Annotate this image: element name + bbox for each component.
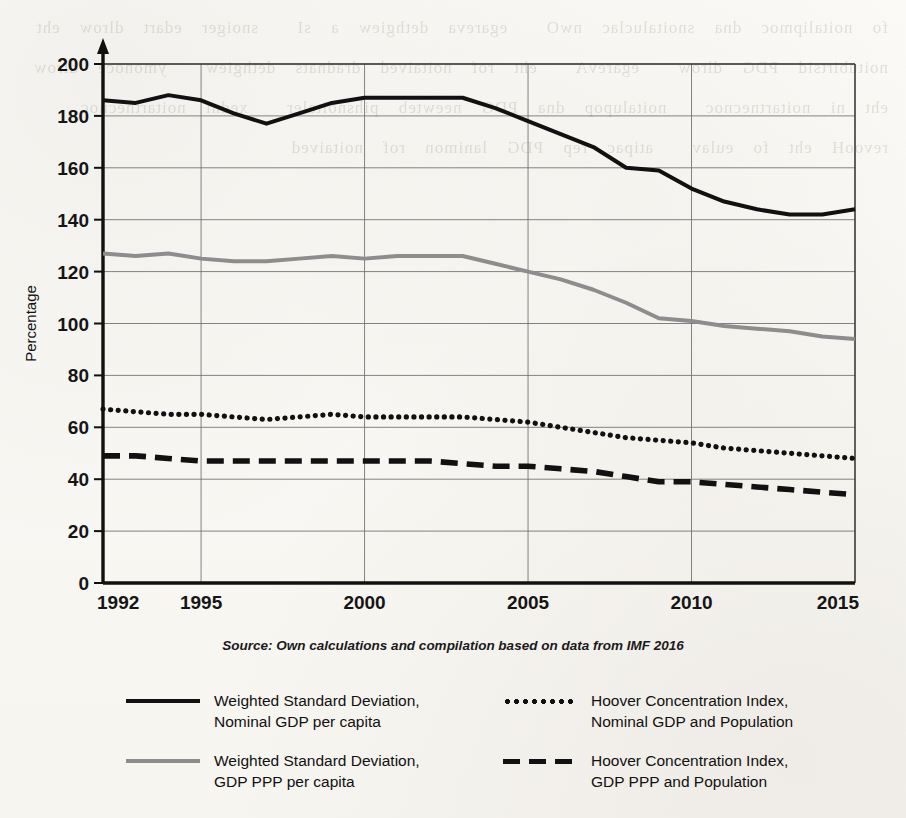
chart-legend: Weighted Standard Deviation, Nominal GDP… [126, 690, 886, 792]
legend-label-line1: Hoover Concentration Index, [591, 692, 788, 709]
legend-label-line2: GDP PPP per capita [214, 773, 355, 790]
y-tick-label: 80 [68, 365, 89, 386]
x-tick-label: 2015 [817, 592, 860, 613]
source-note: Source: Own calculations and compilation… [0, 638, 906, 653]
x-tick-label: 2000 [343, 592, 385, 613]
y-tick-label: 0 [78, 573, 89, 594]
legend-label-line2: GDP PPP and Population [591, 773, 767, 790]
y-tick-label: 160 [57, 158, 89, 179]
legend-item[interactable]: Hoover Concentration Index, Nominal GDP … [503, 690, 858, 732]
y-tick-label: 20 [68, 521, 89, 542]
x-tick-label: 1992 [97, 592, 139, 613]
legend-label-line2: Nominal GDP per capita [214, 713, 381, 730]
legend-label-line1: Weighted Standard Deviation, [214, 692, 420, 709]
y-tick-label: 60 [68, 417, 89, 438]
y-tick-label: 120 [57, 262, 89, 283]
legend-item[interactable]: Weighted Standard Deviation, Nominal GDP… [126, 690, 481, 732]
legend-item[interactable]: Weighted Standard Deviation, GDP PPP per… [126, 750, 481, 792]
series-line-2 [103, 409, 855, 458]
y-tick-label: 180 [57, 106, 89, 127]
solid-black-line-icon [126, 690, 200, 732]
y-tick-label: 200 [57, 54, 89, 75]
legend-item-label: Weighted Standard Deviation, GDP PPP per… [214, 750, 420, 792]
legend-label-line1: Hoover Concentration Index, [591, 752, 788, 769]
x-tick-label: 1995 [180, 592, 223, 613]
y-tick-label: 100 [57, 314, 89, 335]
x-tick-label: 2010 [670, 592, 712, 613]
dotted-black-line-icon [503, 690, 577, 732]
series-line-0 [103, 95, 855, 214]
series-line-3 [103, 456, 855, 495]
y-tick-label: 140 [57, 210, 89, 231]
line-chart: 0204060801001201401601802001992199520002… [0, 0, 906, 620]
dashed-black-line-icon [503, 750, 577, 792]
legend-item-label: Hoover Concentration Index, Nominal GDP … [591, 690, 793, 732]
legend-item-label: Hoover Concentration Index, GDP PPP and … [591, 750, 788, 792]
legend-label-line2: Nominal GDP and Population [591, 713, 793, 730]
y-tick-label: 40 [68, 469, 89, 490]
legend-item-label: Weighted Standard Deviation, Nominal GDP… [214, 690, 420, 732]
legend-label-line1: Weighted Standard Deviation, [214, 752, 420, 769]
series-line-1 [103, 253, 855, 339]
x-tick-label: 2005 [507, 592, 550, 613]
legend-item[interactable]: Hoover Concentration Index, GDP PPP and … [503, 750, 858, 792]
solid-gray-line-icon [126, 750, 200, 792]
y-axis-title: Percentage [22, 285, 39, 362]
y-axis-arrow-icon [97, 38, 109, 54]
